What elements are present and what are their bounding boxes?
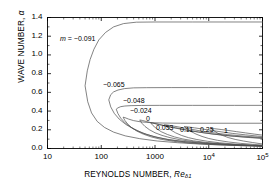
y-axis-title-text: WAVE NUMBER,: [17, 18, 26, 83]
y-tick-label: 0.2: [17, 124, 43, 133]
y-axis-title-symbol: α: [17, 10, 26, 15]
label-m0065: −0.065: [103, 81, 125, 88]
label-m0024: −0.024: [130, 107, 152, 114]
x-axis-title-symbol: Re: [174, 170, 185, 179]
x-tick-label: 10: [28, 152, 68, 161]
x-tick-label: 105: [243, 152, 277, 162]
y-tick-label: 0.4: [17, 106, 43, 115]
m-label: m = −0.091: [60, 35, 95, 42]
figure-container: 0.00.20.40.60.81.01.21.4 101001000104105…: [0, 0, 276, 189]
label-0053: 0.053: [156, 124, 174, 131]
label-1: 1: [224, 127, 228, 134]
x-axis-title-subscript: δ1: [185, 173, 192, 179]
x-tick-label: 1000: [135, 152, 175, 161]
x-axis-title-text: REYNOLDS NUMBER,: [84, 170, 171, 179]
x-axis-title: REYNOLDS NUMBER, Reδ1: [0, 170, 276, 179]
label-0: 0: [146, 115, 150, 122]
x-tick-label: 104: [189, 152, 229, 162]
label-m0048: −0.048: [123, 97, 145, 104]
x-tick-label: 100: [81, 152, 121, 161]
y-axis-title: WAVE NUMBER, α: [17, 0, 26, 102]
label-025: 0.25: [200, 126, 214, 133]
label-011: 0.11: [180, 126, 193, 133]
